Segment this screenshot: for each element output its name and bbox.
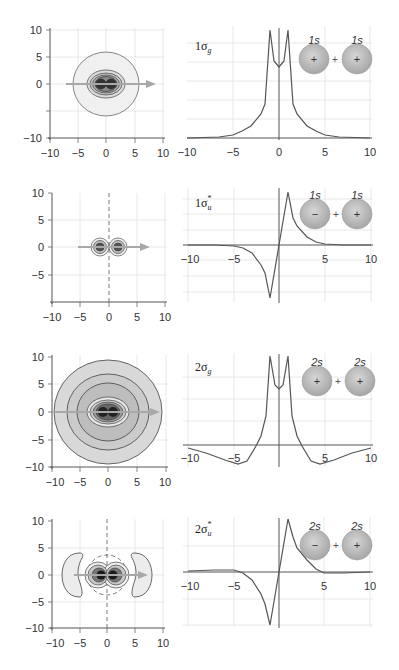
arrow-head-icon [146, 80, 156, 88]
svg-text:+: + [332, 54, 338, 65]
svg-text:10: 10 [364, 580, 376, 592]
svg-text:−: − [312, 539, 318, 551]
svg-text:−10: −10 [23, 132, 42, 144]
svg-text:0: 0 [38, 241, 44, 253]
svg-text:0: 0 [36, 78, 42, 90]
svg-text:5: 5 [134, 311, 140, 323]
svg-text:5: 5 [132, 147, 138, 159]
svg-text:−5: −5 [31, 269, 44, 281]
svg-text:2σg: 2σg [195, 360, 211, 376]
line-plot-2sigma-u-star: 2σu* −10 −5 5 10 2s 2s − + + [181, 517, 376, 628]
svg-text:−5: −5 [74, 637, 87, 649]
panel-1sigma-u-star: 10 5 0 −5 −10 −5 0 5 10 1σu* −10 −5 5 10… [31, 187, 377, 323]
svg-text:2σu*: 2σu* [195, 520, 211, 538]
svg-text:−5: −5 [31, 434, 44, 446]
svg-text:−: − [312, 208, 318, 220]
svg-text:10: 10 [157, 147, 169, 159]
svg-text:10: 10 [159, 311, 171, 323]
svg-text:0: 0 [106, 311, 112, 323]
svg-text:+: + [335, 376, 341, 387]
svg-text:0: 0 [38, 406, 44, 418]
svg-text:1σg: 1σg [195, 39, 211, 55]
contour-plot-2sigma-u-star: 10 5 0 −5 −10 −10 −5 0 5 10 [25, 515, 169, 649]
svg-text:5: 5 [322, 452, 328, 464]
svg-text:0: 0 [276, 146, 282, 158]
svg-text:−10: −10 [25, 461, 44, 473]
svg-text:5: 5 [322, 146, 328, 158]
panel-1sigma-g: 10 5 0 −10 −10 −5 0 5 10 1σg −10 −5 0 5 … [23, 24, 376, 159]
svg-text:10: 10 [32, 187, 44, 199]
line-plot-2sigma-g: 2σg −10 −5 5 10 2s 2s + + + [181, 353, 377, 467]
svg-text:10: 10 [32, 351, 44, 363]
svg-text:10: 10 [30, 24, 42, 36]
ao-combination-1s-1s: 1s 1s + + + [299, 34, 372, 74]
svg-text:5: 5 [38, 214, 44, 226]
svg-text:−10: −10 [181, 253, 200, 265]
svg-text:+: + [333, 209, 339, 220]
svg-text:0: 0 [38, 569, 44, 581]
svg-text:5: 5 [132, 637, 138, 649]
svg-text:10: 10 [365, 452, 377, 464]
svg-text:−10: −10 [46, 476, 65, 488]
svg-text:5: 5 [36, 51, 42, 63]
svg-text:5: 5 [38, 542, 44, 554]
svg-text:−10: −10 [25, 622, 44, 634]
svg-text:−10: −10 [181, 452, 200, 464]
svg-text:+: + [354, 539, 360, 551]
svg-text:−5: −5 [72, 147, 85, 159]
svg-text:+: + [354, 53, 360, 65]
svg-text:10: 10 [364, 146, 376, 158]
svg-text:+: + [311, 53, 317, 65]
ao-combination-2s-2s: 2s 2s + + + [302, 356, 375, 396]
svg-text:+: + [314, 375, 320, 387]
svg-text:10: 10 [159, 476, 171, 488]
svg-text:0: 0 [104, 637, 110, 649]
line-plot-1sigma-g: 1σg −10 −5 0 5 10 1s 1s + + + [178, 26, 376, 158]
svg-text:−5: −5 [228, 253, 241, 265]
svg-text:+: + [354, 208, 360, 220]
svg-text:+: + [333, 540, 339, 551]
contour-plot-1sigma-g: 10 5 0 −10 −10 −5 0 5 10 [23, 24, 169, 159]
svg-text:1σu*: 1σu* [195, 194, 211, 212]
arrow-head-icon [140, 243, 150, 251]
ao-combination-2s-2s: 2s 2s − + + [300, 520, 372, 560]
svg-text:−10: −10 [181, 580, 200, 592]
svg-text:−5: −5 [228, 580, 241, 592]
panel-2sigma-u-star: 10 5 0 −5 −10 −10 −5 0 5 10 2σu* −10 −5 … [25, 515, 376, 649]
svg-text:5: 5 [322, 253, 328, 265]
svg-text:0: 0 [103, 147, 109, 159]
line-plot-1sigma-u-star: 1σu* −10 −5 5 10 1s 1s − + + [181, 188, 377, 303]
svg-text:−5: −5 [74, 311, 87, 323]
svg-text:5: 5 [134, 476, 140, 488]
svg-text:0: 0 [105, 476, 111, 488]
panel-2sigma-g: 10 5 0 −5 −10 −10 −5 0 5 10 2σg −10 −5 5… [25, 351, 377, 488]
svg-text:5: 5 [38, 378, 44, 390]
svg-text:−5: −5 [227, 146, 240, 158]
svg-text:−5: −5 [31, 596, 44, 608]
svg-text:10: 10 [157, 637, 169, 649]
svg-text:−5: −5 [228, 452, 241, 464]
contour-plot-2sigma-g: 10 5 0 −5 −10 −10 −5 0 5 10 [25, 351, 171, 488]
contour-plot-1sigma-u-star: 10 5 0 −5 −10 −5 0 5 10 [31, 187, 171, 323]
svg-text:10: 10 [32, 515, 44, 527]
svg-text:10: 10 [365, 253, 377, 265]
svg-text:−10: −10 [43, 311, 62, 323]
svg-text:−10: −10 [41, 147, 60, 159]
svg-text:5: 5 [321, 580, 327, 592]
ao-combination-1s-1s: 1s 1s − + + [300, 189, 372, 229]
svg-text:−10: −10 [178, 146, 197, 158]
svg-text:−5: −5 [74, 476, 87, 488]
svg-text:−10: −10 [46, 637, 65, 649]
svg-text:+: + [357, 375, 363, 387]
figure: 10 5 0 −10 −10 −5 0 5 10 1σg −10 −5 0 5 … [0, 0, 399, 670]
